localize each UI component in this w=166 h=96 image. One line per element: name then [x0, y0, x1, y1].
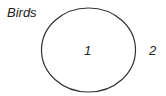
venn-diagram: Birds 1 2	[0, 0, 166, 96]
set-label-birds: Birds	[7, 6, 37, 19]
region-label-inside: 1	[84, 44, 91, 57]
region-label-outside: 2	[149, 44, 156, 57]
